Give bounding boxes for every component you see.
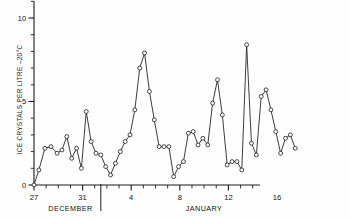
- data-point-marker: [32, 183, 36, 187]
- data-point-marker: [43, 146, 47, 150]
- data-point-marker: [104, 165, 108, 169]
- data-point-marker: [94, 151, 98, 155]
- y-axis-tick-label: 10: [18, 14, 26, 23]
- chart-figure: ICE CRYSTALS PER LITRE –20°C 05102731481…: [0, 0, 350, 219]
- data-point-marker: [49, 145, 53, 149]
- x-axis-tick-label: 27: [30, 193, 38, 202]
- data-point-marker: [84, 110, 88, 114]
- data-point-marker: [220, 113, 224, 117]
- data-series-line: [34, 45, 295, 185]
- data-point-marker: [167, 145, 171, 149]
- data-point-marker: [245, 43, 249, 47]
- x-axis-month-label: DECEMBER: [48, 204, 92, 213]
- data-point-marker: [109, 173, 113, 177]
- data-point-marker: [128, 133, 132, 137]
- y-axis-tick-label: 5: [22, 97, 26, 106]
- data-point-marker: [89, 140, 93, 144]
- data-point-marker: [250, 141, 254, 145]
- data-point-marker: [211, 101, 215, 105]
- y-axis-tick-label: 0: [22, 181, 26, 190]
- data-point-marker: [279, 151, 283, 155]
- data-point-marker: [118, 150, 122, 154]
- data-point-marker: [201, 136, 205, 140]
- data-point-marker: [225, 163, 229, 167]
- data-point-marker: [216, 78, 220, 82]
- data-point-marker: [230, 160, 234, 164]
- x-axis-month-label: JANUARY: [186, 204, 223, 213]
- data-point-marker: [147, 90, 151, 94]
- data-point-marker: [191, 130, 195, 134]
- data-point-marker: [152, 118, 156, 122]
- x-axis-tick-label: 8: [178, 193, 182, 202]
- data-point-marker: [162, 145, 166, 149]
- x-axis-tick-label: 31: [78, 193, 86, 202]
- data-point-marker: [70, 156, 74, 160]
- data-point-marker: [60, 148, 64, 152]
- data-point-marker: [254, 153, 258, 157]
- data-point-marker: [123, 140, 127, 144]
- data-point-marker: [79, 166, 83, 170]
- data-point-marker: [196, 143, 200, 147]
- x-axis-tick-label: 4: [129, 193, 133, 202]
- data-point-marker: [269, 108, 273, 112]
- data-point-marker: [177, 165, 181, 169]
- data-point-marker: [37, 168, 41, 172]
- data-point-marker: [181, 160, 185, 164]
- data-point-marker: [206, 143, 210, 147]
- data-point-marker: [55, 151, 59, 155]
- x-axis-tick-label: 16: [273, 193, 281, 202]
- data-point-marker: [284, 136, 288, 140]
- data-point-marker: [186, 131, 190, 135]
- data-point-marker: [172, 175, 176, 179]
- data-point-marker: [264, 88, 268, 92]
- data-point-marker: [157, 145, 161, 149]
- data-point-marker: [274, 130, 278, 134]
- data-point-marker: [235, 160, 239, 164]
- data-point-marker: [75, 146, 79, 150]
- chart-plot-area: 05102731481216DECEMBERJANUARY: [0, 0, 350, 219]
- x-axis-tick-label: 12: [224, 193, 232, 202]
- data-point-marker: [65, 135, 69, 139]
- data-point-marker: [288, 133, 292, 137]
- data-point-marker: [240, 168, 244, 172]
- data-point-marker: [259, 95, 263, 99]
- data-point-marker: [293, 146, 297, 150]
- data-point-marker: [143, 51, 147, 55]
- data-point-marker: [138, 66, 142, 70]
- data-point-marker: [99, 153, 103, 157]
- data-point-marker: [113, 161, 117, 165]
- data-point-marker: [133, 108, 137, 112]
